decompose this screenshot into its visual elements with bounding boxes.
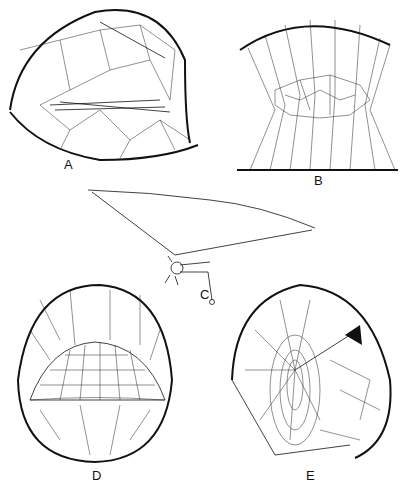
panel-d-illustration: [18, 285, 172, 462]
panel-b-illustration: [237, 20, 398, 170]
panel-e-illustration: [232, 285, 391, 458]
panel-label-e: E: [306, 468, 315, 483]
panel-a-illustration: [10, 10, 198, 160]
panel-label-d: D: [92, 468, 101, 483]
panel-label-b: B: [314, 173, 323, 188]
panel-label-c: C: [200, 287, 209, 302]
panel-label-a: A: [64, 157, 73, 172]
figure-canvas: [0, 0, 406, 486]
